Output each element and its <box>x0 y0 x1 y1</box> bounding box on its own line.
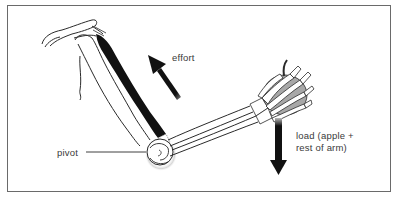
biceps-muscle <box>93 27 170 146</box>
load-label-line2: rest of arm) <box>296 142 347 153</box>
pivot-label: pivot <box>57 147 78 158</box>
forearm-bones <box>168 106 258 156</box>
shoulder-blade <box>42 20 103 47</box>
effort-label: effort <box>172 52 195 63</box>
arm-lever-illustration <box>0 0 401 210</box>
hand-bones <box>250 66 314 124</box>
load-arrow <box>270 118 287 175</box>
load-label-line1: load (apple + <box>296 130 354 141</box>
